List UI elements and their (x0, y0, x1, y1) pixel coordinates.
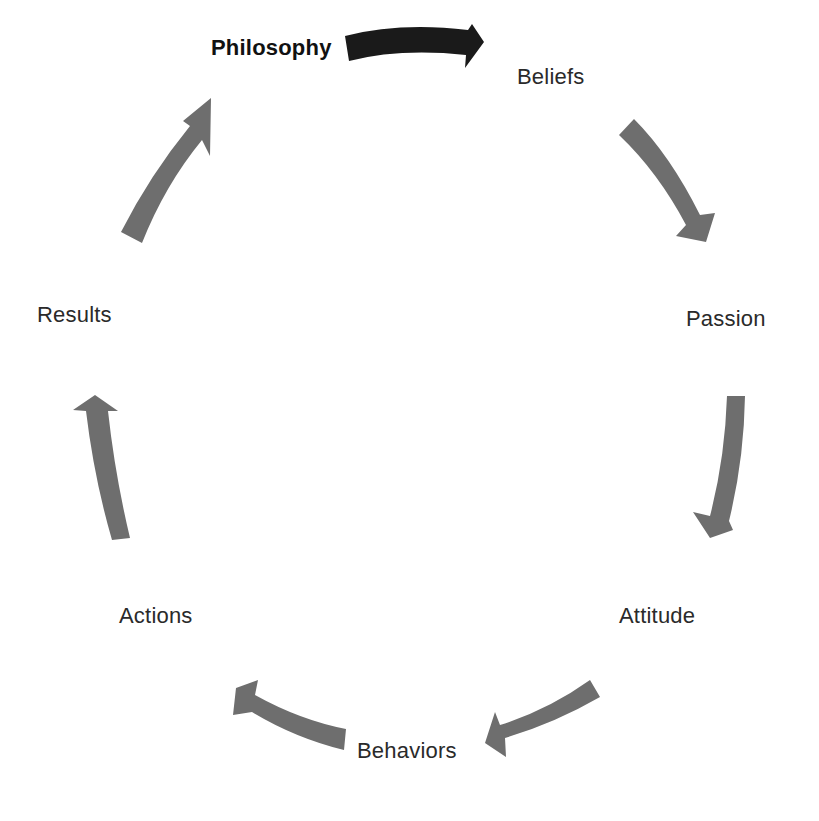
node-attitude: Attitude (619, 603, 695, 629)
arrows-layer (0, 0, 819, 821)
node-philosophy: Philosophy (211, 35, 332, 61)
arrow-philosophy-to-beliefs-icon (345, 24, 484, 68)
arrow-behaviors-to-actions-icon (233, 680, 346, 750)
node-passion: Passion (686, 306, 766, 332)
arrow-attitude-to-behaviors-icon (485, 680, 600, 757)
arrow-beliefs-to-passion-icon (619, 119, 715, 242)
cycle-diagram: Philosophy Beliefs Passion Attitude Beha… (0, 0, 819, 821)
arrow-actions-to-results-icon (73, 395, 130, 540)
arrow-passion-to-attitude-icon (693, 396, 745, 538)
node-results: Results (37, 302, 112, 328)
node-beliefs: Beliefs (517, 64, 584, 90)
node-behaviors: Behaviors (357, 738, 457, 764)
node-actions: Actions (119, 603, 193, 629)
arrow-results-to-philosophy-icon (121, 98, 211, 243)
